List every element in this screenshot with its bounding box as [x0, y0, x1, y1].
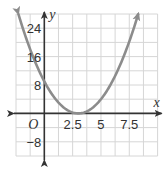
y-tick-label: 8: [34, 78, 41, 93]
x-axis-label: x: [152, 95, 160, 110]
y-tick-label: 16: [27, 50, 41, 65]
y-axis-label: y: [47, 7, 56, 22]
x-tick-label: 7.5: [120, 117, 138, 132]
x-tick-label: 5: [97, 117, 104, 132]
x-tick-label: 2.5: [64, 117, 82, 132]
origin-label: O: [28, 117, 38, 132]
y-tick-label: −8: [26, 135, 41, 150]
y-tick-label: 24: [27, 21, 41, 36]
parabola-graph: 2.557.524168−8Oxy: [0, 0, 166, 169]
